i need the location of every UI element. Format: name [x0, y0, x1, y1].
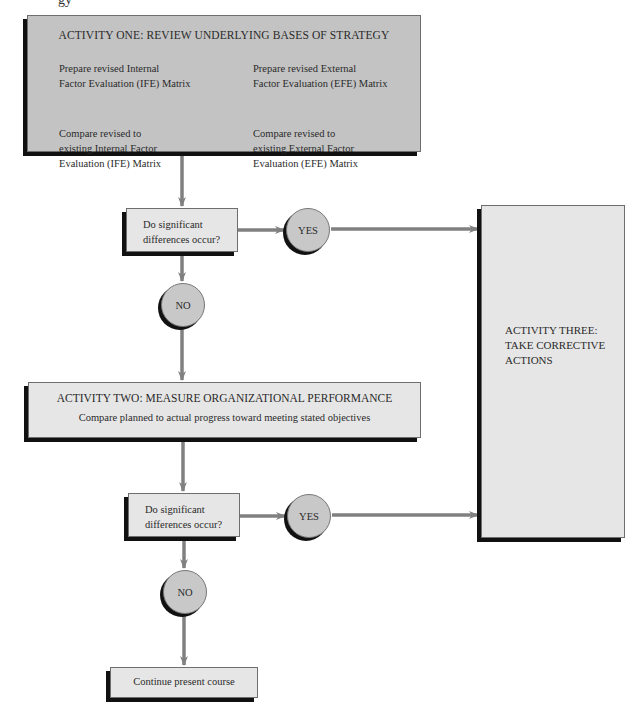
continue-present-course-box: Continue present course	[110, 667, 258, 698]
compare-ife-matrix: Compare revised to existing Internal Fac…	[59, 126, 161, 171]
activity-one-title: ACTIVITY ONE: REVIEW UNDERLYING BASES OF…	[28, 29, 420, 41]
activity-two-box: ACTIVITY TWO: MEASURE ORGANIZATIONAL PER…	[28, 382, 421, 438]
activity-three-title: ACTIVITY THREE: TAKE CORRECTIVE ACTIONS	[505, 323, 605, 368]
activity-two-subtitle: Compare planned to actual progress towar…	[29, 412, 420, 423]
compare-efe-matrix: Compare revised to existing External Fac…	[253, 126, 358, 171]
decision-box-two: Do significant differences occur?	[128, 493, 240, 537]
activity-one-box: ACTIVITY ONE: REVIEW UNDERLYING BASES OF…	[27, 15, 421, 152]
activity-three-box: ACTIVITY THREE: TAKE CORRECTIVE ACTIONS	[481, 205, 625, 538]
activity-two-title: ACTIVITY TWO: MEASURE ORGANIZATIONAL PER…	[29, 392, 420, 404]
yes-circle-one: YES	[286, 208, 330, 252]
decision-box-one: Do significant differences occur?	[126, 208, 238, 252]
no-circle-two: NO	[163, 570, 207, 614]
yes-circle-two: YES	[287, 494, 331, 538]
prepare-efe-matrix: Prepare revised External Factor Evaluati…	[253, 61, 387, 91]
no-circle-one: NO	[161, 283, 205, 327]
prepare-ife-matrix: Prepare revised Internal Factor Evaluati…	[59, 61, 191, 91]
